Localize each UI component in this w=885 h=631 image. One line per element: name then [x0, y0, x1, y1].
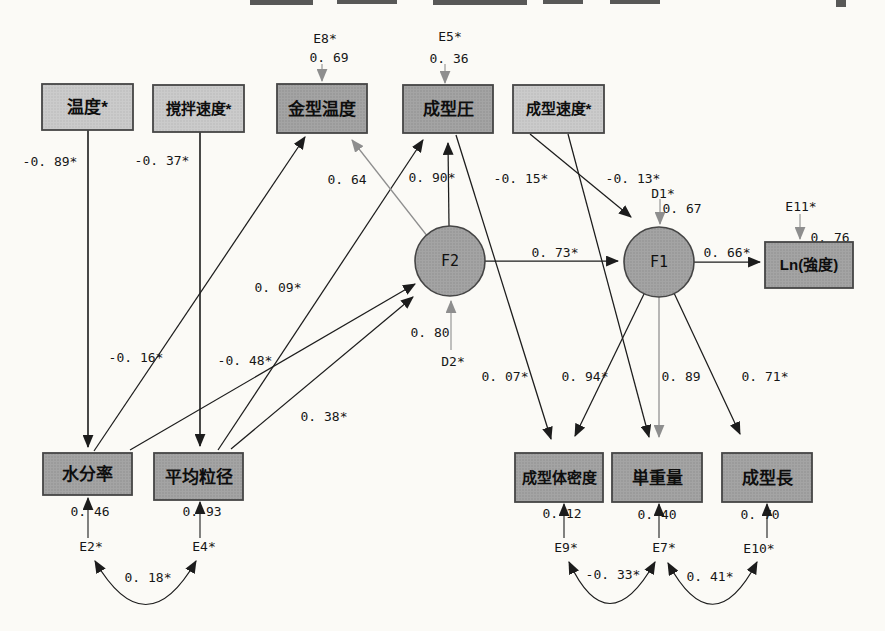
scanned-figure-page: -0. 89*-0. 37*-0. 16*-0. 48*0. 09*0. 38*…: [0, 0, 885, 631]
node-mean-particle-size: 平均粒径: [154, 453, 243, 500]
coefficient-label-pressure-to-molded-density: 0. 07*: [482, 369, 529, 384]
error-value-d2: 0. 80: [410, 325, 449, 340]
path-f2-to-mold-temperature: [352, 140, 428, 237]
path-f1-to-molded-density: [575, 294, 644, 436]
error-value-e4: 0. 93: [182, 504, 221, 519]
node-molding-pressure: 成型圧: [403, 85, 493, 133]
node-unit-weight-label: 単重量: [632, 468, 683, 488]
coefficient-label-f2-to-pressure: 0. 90*: [409, 170, 456, 185]
coefficient-label-f2-to-mold-temperature: 0. 64: [327, 172, 366, 187]
node-factor-f2: F2: [415, 226, 485, 296]
node-stirring-speed: 撹拌速度*: [153, 85, 244, 132]
path-particle-size-to-f2: [231, 297, 413, 449]
scan-artifact: [337, 0, 397, 4]
scan-artifact: [610, 0, 660, 4]
error-term-label-e9: E9*: [554, 540, 577, 555]
path-particle-size-to-pressure: [218, 140, 423, 450]
error-value-e8: 0. 69: [309, 50, 348, 65]
coefficient-label-f1-to-molding-length: 0. 71*: [742, 369, 789, 384]
coefficient-label-molding-speed-to-unit-weight: -0. 15*: [494, 171, 549, 186]
coefficient-label-f1-to-ln-strength: 0. 66*: [704, 245, 751, 260]
node-mold-temperature-label: 金型温度: [287, 99, 357, 119]
error-term-label-e11: E11*: [785, 199, 816, 214]
node-factor-f1-label: F1: [650, 253, 668, 271]
error-term-label-e2: E2*: [79, 539, 102, 554]
error-value-e2: 0. 46: [70, 504, 109, 519]
sem-path-diagram: -0. 89*-0. 37*-0. 16*-0. 48*0. 09*0. 38*…: [0, 0, 885, 631]
node-temperature-label: 温度*: [67, 97, 108, 117]
error-term-label-e8: E8*: [313, 31, 336, 46]
node-ln-strength-label: Ln(強度): [780, 256, 838, 273]
node-stirring-speed-label: 撹拌速度*: [166, 100, 232, 117]
error-term-label-e4: E4*: [192, 539, 215, 554]
error-term-label-d1: D1*: [651, 186, 674, 201]
coefficient-label-particle-size-to-f2: 0. 38*: [301, 409, 348, 424]
path-f1-to-molding-length: [674, 293, 740, 434]
node-mold-temperature: 金型温度: [277, 84, 367, 133]
node-moisture-content-label: 水分率: [62, 464, 113, 484]
node-ln-strength: Ln(強度): [765, 242, 853, 288]
node-factor-f1: F1: [624, 227, 694, 297]
error-term-label-e7: E7*: [652, 540, 675, 555]
node-molding-speed-label: 成型速度*: [526, 100, 592, 117]
error-term-label-e10: E10*: [743, 541, 774, 556]
coefficient-label-f1-to-molded-density: 0. 94*: [562, 369, 609, 384]
error-term-label-d2: D2*: [441, 354, 464, 369]
error-value-e7: 0. 40: [637, 507, 676, 522]
node-molding-length-label: 成型長: [742, 468, 794, 488]
coefficient-label-moisture-to-f2: -0. 48*: [218, 353, 273, 368]
node-moisture-content: 水分率: [43, 453, 132, 495]
coefficient-label-f1-to-unit-weight: 0. 89: [661, 369, 700, 384]
node-mean-particle-size-label: 平均粒径: [165, 467, 233, 487]
scan-artifact: [433, 0, 527, 5]
coefficient-label-f2-to-f1: 0. 73*: [532, 245, 579, 260]
node-factor-f2-label: F2: [441, 252, 459, 270]
error-value-e5: 0. 36: [429, 51, 468, 66]
error-value-d1: 0. 67: [662, 201, 701, 216]
node-molded-density-label: 成型体密度: [522, 469, 598, 486]
scan-artifact: [836, 0, 846, 7]
covariance-label-e7-e10: 0. 41*: [687, 569, 734, 584]
node-molding-length: 成型長: [722, 453, 812, 502]
node-unit-weight: 単重量: [612, 453, 702, 502]
coefficient-label-stirring-to-particle-size: -0. 37*: [135, 153, 190, 168]
covariance-label-e2-e4: 0. 18*: [125, 570, 172, 585]
error-term-label-e5: E5*: [438, 29, 461, 44]
node-molding-pressure-label: 成型圧: [423, 99, 474, 119]
coefficient-label-temperature-to-moisture: -0. 89*: [23, 154, 78, 169]
node-temperature: 温度*: [42, 84, 133, 130]
coefficient-label-molding-speed-to-f1: -0. 13*: [606, 171, 661, 186]
coefficient-label-moisture-to-mold-temperature: -0. 16*: [109, 350, 164, 365]
covariance-label-e9-e7: -0. 33*: [586, 567, 641, 582]
error-value-e10: 0. 70: [740, 507, 779, 522]
node-molding-speed: 成型速度*: [513, 85, 604, 133]
coefficient-label-particle-size-to-pressure: 0. 09*: [255, 280, 302, 295]
node-molded-density: 成型体密度: [515, 453, 603, 502]
scan-artifact: [543, 0, 583, 4]
error-value-e9: 0. 12: [542, 506, 581, 521]
scan-artifact: [250, 0, 313, 5]
